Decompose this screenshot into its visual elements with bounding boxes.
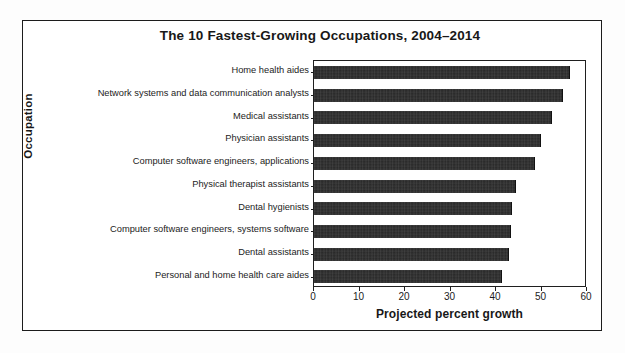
x-tick-label: 20 xyxy=(389,291,419,302)
y-tick-label: Physician assistants xyxy=(225,133,309,144)
bar xyxy=(314,157,535,170)
bar-row xyxy=(314,265,585,288)
x-tick-label: 0 xyxy=(298,291,328,302)
y-tick-label: Home health aides xyxy=(231,65,309,76)
bar xyxy=(314,134,541,147)
y-tick-label: Physical therapist assistants xyxy=(192,179,309,190)
chart-figure: The 10 Fastest-Growing Occupations, 2004… xyxy=(0,0,625,353)
y-tick-label: Computer software engineers, systems sof… xyxy=(110,224,309,235)
x-tick-label: 30 xyxy=(435,291,465,302)
y-tick-mark xyxy=(311,277,314,278)
y-tick-mark xyxy=(311,95,314,96)
bar-row xyxy=(314,197,585,220)
plot-area xyxy=(313,60,586,287)
bar xyxy=(314,66,570,79)
y-tick-mark xyxy=(311,72,314,73)
bar xyxy=(314,111,552,124)
bar xyxy=(314,270,502,283)
chart-title: The 10 Fastest-Growing Occupations, 2004… xyxy=(60,28,580,43)
bar xyxy=(314,202,512,215)
y-axis-title: Occupation xyxy=(22,76,34,176)
y-tick-mark xyxy=(311,186,314,187)
bar xyxy=(314,180,516,193)
bar xyxy=(314,248,509,261)
bar xyxy=(314,225,511,238)
bar xyxy=(314,89,563,102)
y-tick-mark xyxy=(311,140,314,141)
y-tick-mark xyxy=(311,118,314,119)
y-tick-mark xyxy=(311,209,314,210)
bar-row xyxy=(314,61,585,84)
y-tick-mark xyxy=(311,254,314,255)
bars-layer xyxy=(314,61,585,286)
bar-row xyxy=(314,243,585,266)
bar-row xyxy=(314,175,585,198)
y-tick-mark xyxy=(311,231,314,232)
bar-row xyxy=(314,152,585,175)
y-tick-label: Computer software engineers, application… xyxy=(133,156,309,167)
bar-row xyxy=(314,220,585,243)
x-tick-label: 60 xyxy=(571,291,601,302)
bar-row xyxy=(314,84,585,107)
y-tick-mark xyxy=(311,163,314,164)
y-tick-label: Medical assistants xyxy=(233,111,309,122)
x-tick-label: 40 xyxy=(480,291,510,302)
x-tick-label: 10 xyxy=(344,291,374,302)
y-tick-label: Dental hygienists xyxy=(238,202,309,213)
y-tick-label: Personal and home health care aides xyxy=(155,270,309,281)
bar-row xyxy=(314,129,585,152)
x-tick-label: 50 xyxy=(526,291,556,302)
y-tick-label: Dental assistants xyxy=(238,247,309,258)
bar-row xyxy=(314,106,585,129)
y-tick-label: Network systems and data communication a… xyxy=(98,88,309,99)
x-axis-title: Projected percent growth xyxy=(313,307,586,321)
